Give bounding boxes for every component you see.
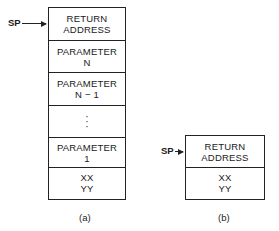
cell-text: PARAMETER bbox=[57, 78, 117, 89]
cell-text: YY bbox=[218, 183, 231, 194]
stack-pointer-label-a: SP bbox=[8, 17, 21, 28]
stack-cell-return-address: RETURN ADDRESS bbox=[49, 8, 125, 41]
cell-text: PARAMETER bbox=[57, 46, 117, 57]
stack-diagram-a: RETURN ADDRESS PARAMETER N PARAMETER N −… bbox=[48, 7, 126, 200]
stack-cell-parameter-n: PARAMETER N bbox=[49, 41, 125, 73]
stack-pointer-arrow-b bbox=[175, 151, 183, 152]
caption-b: (b) bbox=[218, 212, 230, 223]
caption-a: (a) bbox=[79, 212, 91, 223]
stack-cell-return-address: RETURN ADDRESS bbox=[186, 136, 264, 168]
cell-text: YY bbox=[80, 183, 93, 194]
cell-text: RETURN bbox=[205, 141, 246, 152]
cell-text: XX bbox=[80, 172, 93, 183]
stack-cell-parameter-n-minus-1: PARAMETER N − 1 bbox=[49, 73, 125, 106]
cell-text: RETURN bbox=[67, 13, 108, 24]
cell-text: N bbox=[83, 57, 90, 68]
cell-text: XX bbox=[218, 172, 231, 183]
cell-text: ADDRESS bbox=[63, 24, 110, 35]
stack-pointer-arrow-a bbox=[22, 23, 46, 24]
stack-cell-parameter-1: PARAMETER 1 bbox=[49, 138, 125, 168]
vertical-ellipsis: ··· bbox=[85, 114, 89, 129]
cell-text: PARAMETER bbox=[57, 142, 117, 153]
cell-text: N − 1 bbox=[75, 89, 99, 100]
stack-cell-xx-yy: XX YY bbox=[186, 168, 264, 198]
stack-pointer-label-b: SP bbox=[161, 145, 174, 156]
cell-text: ADDRESS bbox=[201, 152, 248, 163]
stack-diagram-b: RETURN ADDRESS XX YY bbox=[185, 135, 265, 200]
cell-text: 1 bbox=[84, 153, 89, 164]
stack-cell-xx-yy: XX YY bbox=[49, 168, 125, 198]
stack-cell-ellipsis: ··· bbox=[49, 106, 125, 138]
